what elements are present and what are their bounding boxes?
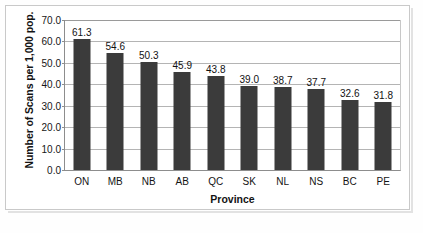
x-tick-label: SK <box>243 176 256 187</box>
bar <box>308 89 325 170</box>
bar-group: 50.3NB <box>132 20 166 170</box>
bar-group: 31.8PE <box>367 20 401 170</box>
bar-value-label: 39.0 <box>240 74 259 85</box>
y-tick-label: 70.0 <box>42 15 61 26</box>
y-tick-label: 60.0 <box>42 36 61 47</box>
bar <box>207 76 224 170</box>
plot-area: 70.060.050.040.030.020.010.00.0 61.3ON54… <box>64 20 401 171</box>
y-tick-label: 20.0 <box>42 122 61 133</box>
x-tick-label: AB <box>176 176 189 187</box>
x-tick-label: NL <box>276 176 289 187</box>
bar <box>375 102 392 170</box>
bar-group: 39.0SK <box>233 20 267 170</box>
bar-value-label: 31.8 <box>374 90 393 101</box>
bar <box>73 39 90 170</box>
bar-group: 32.6BC <box>333 20 367 170</box>
y-tick-label: 40.0 <box>42 79 61 90</box>
bar-group: 61.3ON <box>65 20 99 170</box>
bar-value-label: 61.3 <box>72 27 91 38</box>
x-tick-label: NS <box>309 176 323 187</box>
x-tick-label: ON <box>74 176 89 187</box>
bar <box>341 100 358 170</box>
y-tick-label: 10.0 <box>42 143 61 154</box>
bars-layer: 61.3ON54.6MB50.3NB45.9AB43.8QC39.0SK38.7… <box>65 20 400 170</box>
chart-outer-frame: Number of Scans per 1,000 pop. 70.060.05… <box>5 5 410 210</box>
bar-value-label: 50.3 <box>139 50 158 61</box>
x-tick-label: QC <box>208 176 223 187</box>
x-tick-label: BC <box>343 176 357 187</box>
bar-value-label: 43.8 <box>206 64 225 75</box>
y-tick-label: 30.0 <box>42 100 61 111</box>
chart-figure: Number of Scans per 1,000 pop. 70.060.05… <box>0 0 423 233</box>
x-tick-label: NB <box>142 176 156 187</box>
y-tick-label: 0.0 <box>47 165 61 176</box>
bar-group: 54.6MB <box>99 20 133 170</box>
y-axis-title: Number of Scans per 1,000 pop. <box>23 5 35 175</box>
bar <box>140 62 157 170</box>
bar-value-label: 37.7 <box>307 77 326 88</box>
x-axis-title: Province <box>64 193 401 205</box>
bar-group: 37.7NS <box>300 20 334 170</box>
bar-group: 38.7NL <box>266 20 300 170</box>
bar <box>241 86 258 170</box>
bar-value-label: 45.9 <box>173 60 192 71</box>
x-tick-label: MB <box>108 176 123 187</box>
x-tick-label: PE <box>377 176 390 187</box>
bar <box>274 87 291 170</box>
bar <box>174 72 191 170</box>
bar-value-label: 32.6 <box>340 88 359 99</box>
bar-value-label: 38.7 <box>273 75 292 86</box>
y-tick-label: 50.0 <box>42 57 61 68</box>
bar <box>107 53 124 170</box>
bar-value-label: 54.6 <box>106 41 125 52</box>
bar-group: 43.8QC <box>199 20 233 170</box>
y-tick-mark <box>62 170 65 171</box>
bar-group: 45.9AB <box>166 20 200 170</box>
